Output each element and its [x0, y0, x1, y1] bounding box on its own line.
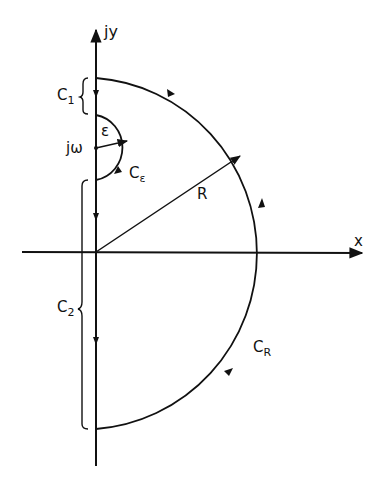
- c-r-main: C: [253, 338, 263, 356]
- arrow-down-c2: [93, 337, 99, 345]
- vertical-axis-label: jy: [104, 24, 118, 40]
- j-omega-point: [94, 146, 98, 150]
- arrow-down-mid: [93, 213, 99, 221]
- c1-main: C: [57, 86, 67, 104]
- c-r-label: CR: [253, 340, 271, 355]
- arrow-down-c1: [93, 90, 99, 98]
- horizontal-axis-label: x: [354, 234, 363, 249]
- c-r-sub: R: [263, 346, 271, 359]
- j-omega-label: jω: [66, 141, 83, 156]
- contour-diagram: jy x C1 C2 Cε CR ε jω R: [0, 0, 385, 486]
- radius-label: R: [197, 187, 207, 202]
- c2-sub: 2: [67, 306, 74, 319]
- c1-sub: 1: [67, 94, 74, 107]
- contour-drawing: [0, 0, 385, 486]
- arrow-arc-top: [167, 89, 175, 97]
- c-epsilon-main: C: [129, 164, 139, 182]
- c2-main: C: [57, 298, 67, 316]
- epsilon-label: ε: [101, 124, 109, 139]
- c-epsilon-label: Cε: [129, 166, 145, 181]
- c-epsilon-sub: ε: [139, 172, 145, 185]
- c2-label: C2: [57, 300, 74, 315]
- brace-c1: [80, 78, 88, 114]
- brace-c2: [78, 180, 88, 429]
- c1-label: C1: [57, 88, 74, 103]
- horizontal-axis: [22, 252, 362, 253]
- arrow-arc-upper-right: [258, 198, 265, 208]
- arrow-arc-lower: [224, 368, 233, 376]
